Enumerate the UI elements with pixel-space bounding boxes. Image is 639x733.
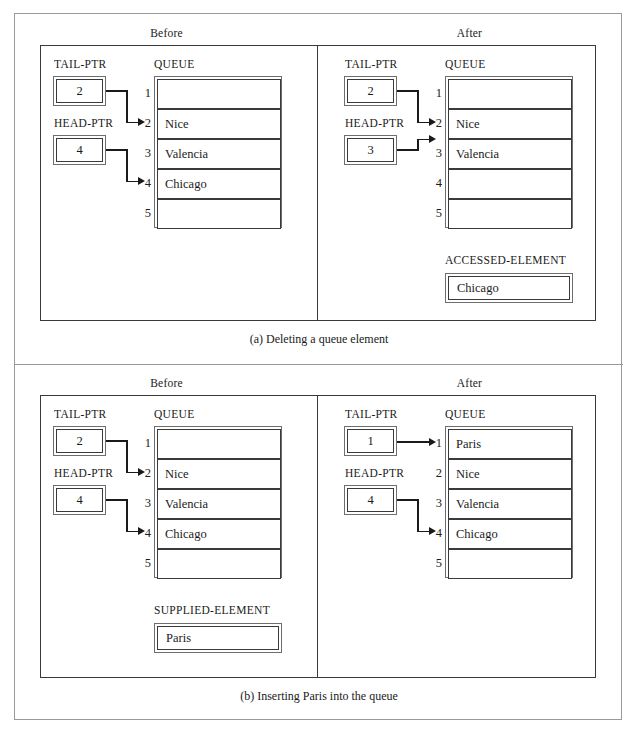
queue-cell-text: Valencia [165,497,208,512]
queue-cell [157,79,281,109]
tail-ptr-value-b-after: 1 [348,434,393,449]
head-ptr-arrow-a-after-seg1 [397,149,419,151]
queue-cell: Valencia [448,489,572,519]
queue-row-index: 2 [137,116,151,131]
queue-cell: Nice [448,459,572,489]
queue-row-index: 5 [137,556,151,571]
tail-ptr-label-a-after: TAIL-PTR [345,58,398,70]
queue-row-index: 5 [428,206,442,221]
queue-b-before: Nice Valencia Chicago [154,426,282,578]
tail-ptr-arrow-b-after-seg1 [397,441,431,443]
queue-cell-text: Chicago [165,177,207,192]
tail-ptr-arrow-a-after-seg1 [397,90,419,92]
queue-row-index: 3 [428,146,442,161]
queue-row-index: 1 [137,436,151,451]
accessed-element-label: ACCESSED-ELEMENT [445,254,566,266]
tail-ptr-value-a-after: 2 [348,84,393,99]
queue-cell: Valencia [157,489,281,519]
queue-cell: Nice [448,109,572,139]
queue-row-index: 5 [137,206,151,221]
tail-ptr-label-b-after: TAIL-PTR [345,408,398,420]
queue-row-index: 2 [428,116,442,131]
queue-cell [448,199,572,229]
section-inserting: Before After TAIL-PTR 2 HEAD-PTR 4 QUEUE [15,364,623,721]
tail-ptr-arrow-b-before-seg1 [106,440,128,442]
supplied-element-label: SUPPLIED-ELEMENT [154,604,270,616]
head-ptr-arrow-a-before-seg1 [106,149,128,151]
queue-cell-text: Valencia [456,147,499,162]
head-ptr-label-b-after: HEAD-PTR [345,467,404,479]
queue-cell-text: Valencia [165,147,208,162]
caption-a: (a) Deleting a queue element [15,332,623,347]
queue-cell [448,549,572,579]
column-heading-before-a: Before [15,27,318,39]
head-ptr-arrowhead-a-after [429,135,436,143]
head-ptr-arrow-a-before-seg2 [126,149,128,182]
head-ptr-arrow-b-before-seg2 [126,499,128,532]
panels-divider-b [317,396,318,677]
queue-cell [157,429,281,459]
tail-ptr-arrow-a-before-seg1 [106,90,128,92]
tail-ptr-arrow-b-before-seg2 [126,440,128,473]
supplied-element-box: Paris [154,623,282,653]
queue-label-b-after: QUEUE [445,408,485,420]
queue-cell-text: Nice [456,117,480,132]
head-ptr-value-b-after: 4 [348,493,393,508]
queue-cell-text: Chicago [165,527,207,542]
tail-ptr-arrow-a-after-seg2 [417,90,419,123]
caption-b: (b) Inserting Paris into the queue [15,689,623,704]
supplied-element-value: Paris [166,631,191,646]
accessed-element-box: Chicago [445,273,573,303]
queue-cell-text: Chicago [456,527,498,542]
head-ptr-label-a-after: HEAD-PTR [345,117,404,129]
tail-ptr-box-a-before: 2 [53,76,106,106]
queue-row-index: 1 [137,86,151,101]
head-ptr-arrow-a-after-seg2 [417,139,419,151]
queue-cell-text: Nice [165,467,189,482]
figure-outer-frame: Before After TAIL-PTR 2 HEAD-PTR 4 [14,13,622,720]
queue-cell: Chicago [448,519,572,549]
queue-label-b-before: QUEUE [154,408,194,420]
tail-ptr-arrow-a-before-seg2 [126,90,128,123]
queue-cell-text: Valencia [456,497,499,512]
head-ptr-value-a-before: 4 [57,143,102,158]
queue-label-a-before: QUEUE [154,58,194,70]
column-heading-after-a: After [318,27,621,39]
queue-cell: Chicago [157,169,281,199]
queue-row-index: 2 [428,466,442,481]
queue-cell [157,549,281,579]
head-ptr-arrow-b-after-seg2 [417,499,419,532]
head-ptr-value-b-before: 4 [57,493,102,508]
head-ptr-label-a-before: HEAD-PTR [54,117,113,129]
head-ptr-box-b-after: 4 [344,485,397,515]
head-ptr-box-a-after: 3 [344,135,397,165]
queue-cell: Nice [157,109,281,139]
queue-cell [448,169,572,199]
head-ptr-value-a-after: 3 [348,143,393,158]
tail-ptr-label-a-before: TAIL-PTR [54,58,107,70]
queue-cell: Valencia [448,139,572,169]
queue-a-after: Nice Valencia [445,76,573,228]
queue-row-index: 3 [137,146,151,161]
tail-ptr-label-b-before: TAIL-PTR [54,408,107,420]
queue-b-after: Paris Nice Valencia Chicago [445,426,573,578]
queue-row-index: 5 [428,556,442,571]
queue-row-index: 3 [428,496,442,511]
head-ptr-box-b-before: 4 [53,485,106,515]
queue-cell: Chicago [157,519,281,549]
queue-label-a-after: QUEUE [445,58,485,70]
head-ptr-arrow-b-before-seg1 [106,499,128,501]
queue-cell: Paris [448,429,572,459]
section-deleting: Before After TAIL-PTR 2 HEAD-PTR 4 [15,14,623,364]
queue-cell-text: Paris [456,437,481,452]
queue-row-index: 4 [428,176,442,191]
queue-a-before: Nice Valencia Chicago [154,76,282,228]
tail-ptr-box-b-before: 2 [53,426,106,456]
queue-row-index: 1 [428,86,442,101]
tail-ptr-box-a-after: 2 [344,76,397,106]
queue-row-index: 4 [428,526,442,541]
queue-row-index: 4 [137,526,151,541]
queue-cell-text: Nice [456,467,480,482]
queue-row-index: 2 [137,466,151,481]
queue-row-index: 4 [137,176,151,191]
